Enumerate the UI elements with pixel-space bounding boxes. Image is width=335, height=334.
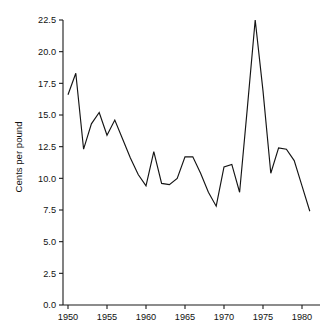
- y-tick-label: 22.5: [38, 15, 56, 25]
- x-tick-label: 1950: [58, 312, 78, 322]
- y-tick-label: 7.5: [43, 205, 56, 215]
- y-tick-marks: [59, 20, 63, 305]
- y-tick-label: 15.0: [38, 110, 56, 120]
- chart-figure: 0.02.55.07.510.012.515.017.520.022.5 195…: [0, 0, 335, 334]
- data-series-line: [68, 20, 310, 211]
- x-tick-labels: 1950195519601965197019751980: [58, 312, 312, 322]
- x-tick-label: 1970: [214, 312, 234, 322]
- y-tick-label: 17.5: [38, 79, 56, 89]
- chart-plot-area: 0.02.55.07.510.012.515.017.520.022.5 195…: [0, 0, 335, 334]
- x-tick-label: 1980: [292, 312, 312, 322]
- x-tick-label: 1975: [253, 312, 273, 322]
- y-tick-label: 10.0: [38, 174, 56, 184]
- x-tick-label: 1955: [97, 312, 117, 322]
- y-tick-label: 2.5: [43, 269, 56, 279]
- series-polyline: [68, 20, 310, 211]
- x-tick-marks: [68, 305, 302, 309]
- x-tick-label: 1965: [175, 312, 195, 322]
- y-tick-label: 0.0: [43, 300, 56, 310]
- y-tick-label: 5.0: [43, 237, 56, 247]
- y-tick-label: 12.5: [38, 142, 56, 152]
- y-tick-labels: 0.02.55.07.510.012.515.017.520.022.5: [38, 15, 56, 310]
- y-tick-label: 20.0: [38, 47, 56, 57]
- x-tick-label: 1960: [136, 312, 156, 322]
- y-axis-title: Cents per pound: [13, 122, 24, 193]
